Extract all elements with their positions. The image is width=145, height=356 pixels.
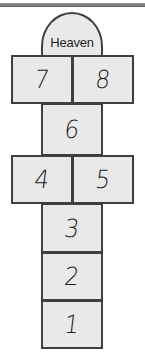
cell-label: 1 [63, 312, 81, 337]
hopscotch-figure: Heaven 7 8 6 4 5 3 2 1 [0, 0, 145, 356]
hopscotch-cell-4[interactable]: 4 [11, 155, 73, 204]
hopscotch-cell-2[interactable]: 2 [41, 252, 103, 301]
cell-label: 8 [94, 67, 112, 92]
hopscotch-cell-1[interactable]: 1 [41, 300, 103, 349]
cell-label: 3 [63, 216, 81, 241]
hopscotch-cell-6[interactable]: 6 [41, 103, 103, 156]
hopscotch-cell-7[interactable]: 7 [11, 55, 73, 104]
hopscotch-cell-8[interactable]: 8 [72, 55, 134, 104]
cell-label: 5 [94, 167, 112, 192]
heaven-label: Heaven [50, 36, 94, 49]
top-divider-rule [0, 3, 145, 7]
hopscotch-cell-3[interactable]: 3 [41, 203, 103, 253]
heaven-arch[interactable]: Heaven [41, 12, 103, 58]
cell-label: 6 [63, 117, 81, 142]
hopscotch-cell-5[interactable]: 5 [72, 155, 134, 204]
cell-label: 2 [63, 264, 81, 289]
cell-label: 7 [33, 67, 51, 92]
cell-label: 4 [33, 167, 51, 192]
